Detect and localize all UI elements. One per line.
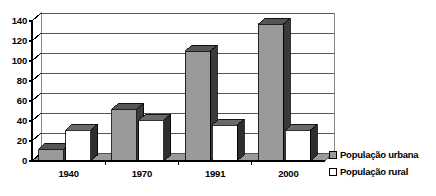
legend-item-populacao-rural: População rural xyxy=(329,163,436,180)
x-axis-category-2000: 2000 xyxy=(258,168,318,179)
legend-swatch-rural-icon xyxy=(329,168,337,176)
x-axis-category-1940: 1940 xyxy=(39,168,99,179)
legend-label-urban: População urbana xyxy=(340,149,418,160)
legend-label-rural: População rural xyxy=(340,166,408,177)
legend-item-populacao-urbana: População urbana xyxy=(329,146,436,163)
chart-legend: População urbana População rural xyxy=(329,146,436,180)
legend-swatch-urban-icon xyxy=(329,151,337,159)
bar-chart: 020406080100120140 1940197019912000 Popu… xyxy=(0,0,436,196)
x-axis-category-1991: 1991 xyxy=(185,168,245,179)
x-axis-category-1970: 1970 xyxy=(112,168,172,179)
